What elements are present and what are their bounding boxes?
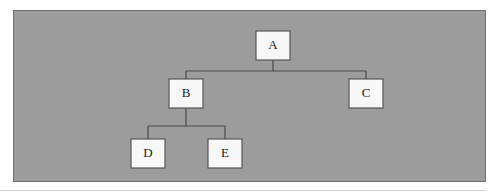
tree-node-label: C	[362, 85, 371, 100]
tree-node-label: D	[143, 145, 152, 160]
tree-node-c[interactable]: C	[349, 79, 383, 108]
tree-node-e[interactable]: E	[208, 139, 242, 168]
diagram-panel: ABCDE	[13, 10, 486, 182]
tree-node-a[interactable]: A	[256, 31, 290, 60]
tree-node-b[interactable]: B	[169, 79, 203, 108]
figure-root: ABCDE	[0, 0, 500, 196]
bottom-divider-rule	[0, 190, 486, 191]
tree-node-d[interactable]: D	[131, 139, 165, 168]
tree-node-label: A	[268, 37, 278, 52]
tree-diagram-canvas: ABCDE	[14, 11, 487, 183]
nodes-group: ABCDE	[131, 31, 383, 168]
tree-node-label: B	[182, 85, 191, 100]
tree-node-label: E	[221, 145, 229, 160]
